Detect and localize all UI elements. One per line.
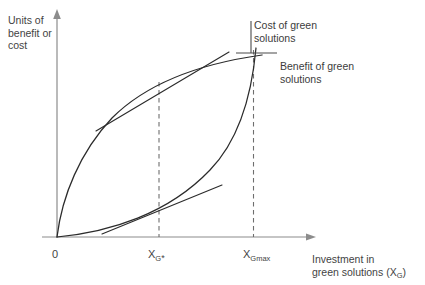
xgmax-subscript: Gmax: [250, 254, 270, 263]
cost-tangent-line: [102, 185, 222, 234]
x-axis-label-subscript: G: [397, 271, 403, 280]
cost-curve: [57, 48, 256, 237]
y-axis-arrowhead: [53, 9, 61, 19]
benefit-cost-diagram: [0, 0, 425, 285]
x-axis-label-line2-prefix: green solutions (X: [312, 266, 397, 278]
x-axis-arrowhead: [306, 233, 316, 240]
xgstar-asterisk: *: [161, 253, 165, 263]
benefit-curve-label: Benefit of green solutions: [280, 60, 354, 85]
y-axis-label: Units of benefit or cost: [8, 14, 52, 52]
x-axis-label: Investment ingreen solutions (XG): [312, 253, 406, 280]
x-axis-label-line1: Investment in: [312, 253, 374, 265]
xgstar-tick-label: XG*: [148, 248, 165, 263]
x-axis-label-line2-suffix: ): [402, 266, 406, 278]
origin-tick-label: 0: [52, 248, 58, 261]
cost-curve-label: Cost of green solutions: [254, 19, 317, 44]
benefit-tangent-line: [96, 52, 229, 131]
xgmax-tick-label: XGmax: [243, 248, 270, 263]
